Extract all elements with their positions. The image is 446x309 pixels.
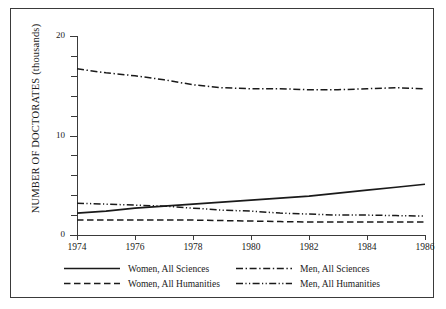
legend-label: Women, All Sciences — [128, 264, 209, 274]
legend-entry-women-all-humanities: Women, All Humanities — [63, 279, 235, 289]
legend-entry-women-all-sciences: Women, All Sciences — [63, 264, 235, 274]
figure-border: NUMBER OF DOCTORATES (thousands) 01020 1… — [10, 8, 434, 298]
legend-entry-men-all-humanities: Men, All Humanities — [235, 279, 419, 289]
clipped-caption-strip — [0, 0, 446, 7]
legend-swatch-dash-dot — [235, 264, 293, 273]
series-line-women-all-humanities — [77, 220, 425, 222]
legend-swatch-dashed — [63, 279, 121, 288]
figure-root: NUMBER OF DOCTORATES (thousands) 01020 1… — [0, 0, 446, 309]
series-line-men-all-humanities — [77, 203, 425, 216]
legend-swatch-solid — [63, 264, 121, 273]
chart-legend: Women, All Sciences Men, All Sciences Wo… — [63, 261, 419, 291]
legend-label: Men, All Sciences — [300, 264, 369, 274]
legend-label: Women, All Humanities — [128, 279, 220, 289]
legend-swatch-dash-dot-dot — [235, 279, 293, 288]
series-line-men-all-sciences — [77, 69, 425, 90]
legend-label: Men, All Humanities — [300, 279, 380, 289]
series-line-women-all-sciences — [77, 184, 425, 213]
series-layer — [11, 9, 435, 299]
plot-area: NUMBER OF DOCTORATES (thousands) 01020 1… — [11, 9, 435, 299]
legend-entry-men-all-sciences: Men, All Sciences — [235, 264, 419, 274]
